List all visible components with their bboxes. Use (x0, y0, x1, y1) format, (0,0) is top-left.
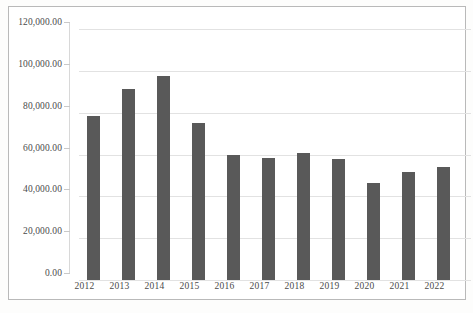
x-tick-label-2018: 2018 (275, 281, 315, 291)
x-tick-label-2012: 2012 (65, 281, 105, 291)
x-tick-label-2015: 2015 (170, 281, 210, 291)
x-tick-label-2016: 2016 (205, 281, 245, 291)
chart-page: 120,000.00 100,000.00 80,000.00 60,000.0… (0, 0, 473, 313)
x-tick-label-2022: 2022 (415, 281, 455, 291)
x-tick-label-2013: 2013 (100, 281, 140, 291)
x-tick-label-2017: 2017 (240, 281, 280, 291)
x-tick-label-2021: 2021 (380, 281, 420, 291)
x-tick-label-2020: 2020 (345, 281, 385, 291)
x-tick-label-2019: 2019 (310, 281, 350, 291)
x-axis-labels: 2012 2013 2014 2015 2016 2017 2018 2019 … (0, 0, 473, 313)
x-tick-label-2014: 2014 (135, 281, 175, 291)
